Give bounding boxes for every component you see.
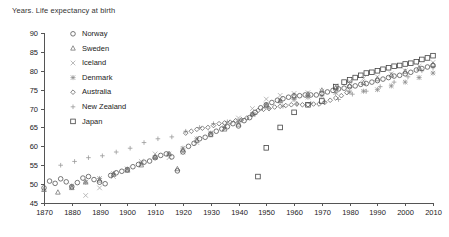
data-point [375, 87, 380, 92]
data-point [189, 129, 194, 134]
data-point [92, 177, 97, 182]
y-tick-label: 80 [30, 67, 38, 76]
legend-item-denmark[interactable]: Denmark [70, 73, 112, 82]
y-tick-label: 55 [30, 161, 38, 170]
legend-marker-triangle [71, 46, 76, 50]
data-point [392, 64, 397, 69]
x-tick-label: 1980 [342, 208, 359, 217]
data-point [53, 181, 58, 186]
data-point [397, 73, 402, 78]
data-point [392, 74, 397, 79]
legend-label: Norway [82, 29, 108, 38]
data-point [206, 125, 211, 130]
data-point [370, 80, 375, 85]
x-axis: 1870188018901900191019201930194019501960… [36, 203, 442, 217]
data-point [75, 180, 80, 185]
data-point [342, 80, 347, 85]
legend-item-australia[interactable]: Australia [71, 87, 112, 96]
data-point [403, 72, 408, 77]
data-point [328, 98, 333, 103]
data-point [200, 126, 205, 131]
data-point [317, 102, 322, 107]
legend-marker-asterisk [70, 75, 75, 80]
data-point [425, 65, 430, 70]
data-point [214, 129, 219, 134]
data-point [158, 153, 163, 158]
series-iceland [83, 60, 435, 198]
legend-marker-cross-x [71, 61, 76, 66]
data-point [420, 57, 425, 62]
data-point [147, 159, 152, 164]
data-point [397, 63, 402, 68]
data-point [217, 121, 222, 126]
x-tick-label: 2000 [397, 208, 414, 217]
data-point [342, 86, 347, 91]
y-tick-label: 90 [30, 29, 38, 38]
data-point [311, 102, 316, 107]
x-tick-label: 1930 [203, 208, 220, 217]
data-point [353, 75, 358, 80]
data-point [406, 75, 411, 80]
legend-marker-circle [71, 32, 76, 37]
legend-item-sweden[interactable]: Sweden [71, 44, 109, 53]
legend-label: Sweden [82, 44, 109, 53]
data-point [386, 65, 391, 70]
legend-item-norway[interactable]: Norway [71, 29, 108, 38]
y-tick-label: 50 [30, 180, 38, 189]
data-point [350, 92, 355, 97]
legend-marker-diamond [71, 90, 76, 95]
data-point [300, 102, 305, 107]
data-point [386, 75, 391, 80]
x-tick-label: 1940 [231, 208, 248, 217]
data-point [414, 59, 419, 64]
x-tick-label: 1910 [147, 208, 164, 217]
data-point [264, 146, 269, 151]
data-point [114, 150, 119, 155]
data-point [308, 93, 313, 98]
data-point [408, 61, 413, 66]
data-point [353, 84, 358, 89]
legend-label: Australia [82, 87, 112, 96]
data-point [203, 135, 208, 140]
data-point [81, 176, 86, 181]
legend-item-new-zealand[interactable]: New Zealand [71, 102, 127, 111]
data-point [100, 153, 105, 158]
series-norway [42, 63, 436, 190]
data-point [289, 102, 294, 107]
x-tick-label: 1970 [314, 208, 331, 217]
data-point [58, 177, 63, 182]
legend-marker-square [71, 119, 76, 124]
data-point [128, 146, 133, 151]
data-point [375, 68, 380, 73]
legend-label: Denmark [82, 73, 113, 82]
x-tick-label: 2010 [425, 208, 442, 217]
data-point [431, 53, 436, 58]
x-tick-label: 1880 [64, 208, 81, 217]
data-point [325, 90, 330, 95]
legend-item-iceland[interactable]: Iceland [71, 58, 106, 67]
scatter-plot: 4550556065707580859018701880189019001910… [0, 0, 449, 237]
data-point [272, 105, 277, 110]
data-point [295, 102, 300, 107]
chart-legend: NorwaySwedenIcelandDenmarkAustraliaNew Z… [70, 29, 126, 126]
data-point [370, 70, 375, 75]
data-point [297, 93, 302, 98]
data-point [303, 93, 308, 98]
data-point [430, 71, 435, 76]
y-tick-label: 65 [30, 123, 38, 132]
data-point [381, 67, 386, 72]
legend-marker-plus [71, 105, 76, 110]
data-point [86, 174, 91, 179]
data-point [292, 110, 297, 115]
data-point [156, 136, 161, 141]
data-point [278, 125, 283, 130]
x-tick-label: 1890 [92, 208, 109, 217]
x-tick-label: 1990 [369, 208, 386, 217]
data-point [131, 164, 136, 169]
data-point [270, 100, 275, 105]
data-point [286, 95, 291, 100]
legend-item-japan[interactable]: Japan [71, 117, 103, 126]
data-point [417, 75, 422, 80]
data-point [47, 179, 52, 184]
data-point [170, 135, 175, 140]
